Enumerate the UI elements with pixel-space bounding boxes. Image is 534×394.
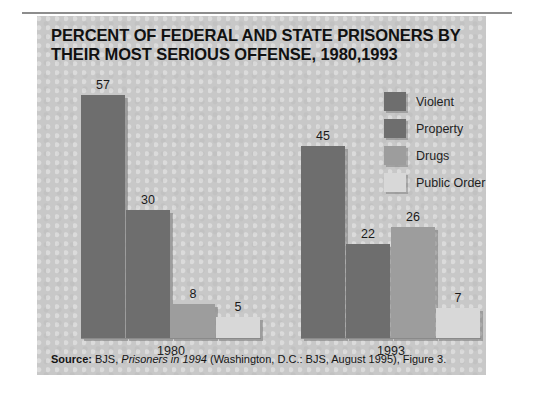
- bar-violent: [301, 146, 345, 338]
- source-note-text-a: BJS,: [92, 353, 121, 365]
- legend-item-property: Property: [384, 115, 499, 142]
- bar-group-1980: 57 30 8 5 1980: [81, 76, 258, 338]
- bar-violent: [81, 95, 125, 338]
- bar-public-order: [436, 308, 480, 338]
- bar-value-property: 30: [126, 193, 170, 207]
- bar-value-public-order: 5: [216, 300, 260, 314]
- source-note-text-b: (Washington, D.C.: BJS, August 1995), Fi…: [207, 353, 446, 365]
- bar-drugs: [391, 227, 435, 338]
- source-note: Source: BJS, Prisoners in 1994 (Washingt…: [51, 352, 476, 366]
- bar-value-drugs: 26: [391, 210, 435, 224]
- legend-swatch-violent-icon: [384, 92, 406, 111]
- bar-drugs: [171, 304, 215, 338]
- legend-label-violent: Violent: [416, 95, 454, 109]
- bar-value-public-order: 7: [436, 291, 480, 305]
- bar-property: [126, 210, 170, 338]
- bar-value-property: 22: [346, 227, 390, 241]
- legend-label-drugs: Drugs: [416, 149, 449, 163]
- legend-item-public-order: Public Order: [384, 169, 499, 196]
- page-divider-rule: [22, 12, 512, 14]
- chart-legend: Violent Property Drugs Public Order: [384, 88, 499, 196]
- source-note-lead: Source:: [51, 353, 92, 365]
- legend-swatch-property-icon: [384, 119, 406, 138]
- legend-label-property: Property: [416, 122, 463, 136]
- source-note-publication: Prisoners in 1994: [121, 353, 207, 365]
- legend-item-violent: Violent: [384, 88, 499, 115]
- figure-title-line-1: PERCENT OF FEDERAL AND STATE PRISONERS B…: [51, 26, 461, 44]
- bar-value-violent: 57: [81, 78, 125, 92]
- bar-value-violent: 45: [301, 129, 345, 143]
- legend-item-drugs: Drugs: [384, 142, 499, 169]
- baseline-1980: [81, 338, 261, 339]
- bar-property: [346, 244, 390, 338]
- bar-public-order: [216, 317, 260, 338]
- bar-value-drugs: 8: [171, 287, 215, 301]
- legend-label-public-order: Public Order: [416, 176, 485, 190]
- figure-panel: PERCENT OF FEDERAL AND STATE PRISONERS B…: [37, 16, 486, 375]
- figure-title: PERCENT OF FEDERAL AND STATE PRISONERS B…: [51, 26, 471, 64]
- figure-title-line-2: THEIR MOST SERIOUS OFFENSE, 1980,1993: [51, 45, 471, 64]
- baseline-1993: [301, 338, 481, 339]
- legend-swatch-drugs-icon: [384, 146, 406, 165]
- legend-swatch-public-order-icon: [384, 173, 406, 192]
